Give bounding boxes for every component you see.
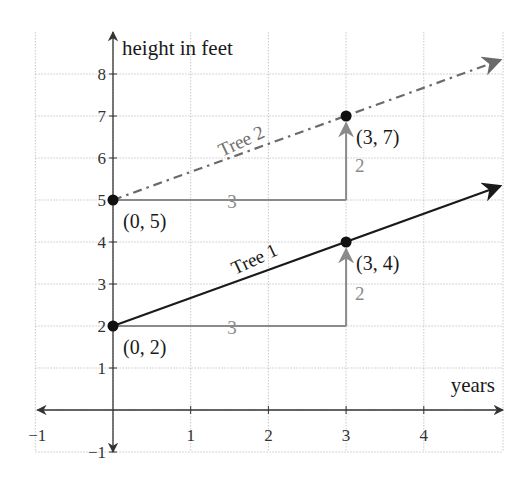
run-label: 3 [227,191,237,212]
rise-label: 2 [355,155,365,176]
y-tick-label: 7 [98,107,107,126]
data-point [341,237,352,248]
point-label: (0, 2) [123,336,166,359]
rise-label: 2 [355,283,365,304]
x-tick-label: 3 [342,426,351,445]
x-tick-label: 4 [420,426,429,445]
series-tree-1: 32Tree 1(0, 2)(3, 4) [108,186,501,359]
data-point [341,111,352,122]
y-tick-label: 1 [98,359,107,378]
y-tick-label: 8 [98,65,107,84]
point-label: (3, 7) [356,126,399,149]
y-tick-label: 5 [98,191,107,210]
series-line [113,186,501,326]
x-tick-label: −1 [28,426,46,445]
data-point [108,195,119,206]
y-tick-label: 6 [98,149,107,168]
y-axis-title: height in feet [122,36,233,60]
series-line [113,60,501,200]
series-label: Tree 1 [228,239,281,278]
x-tick-label: 2 [264,426,273,445]
y-tick-label: −1 [88,443,106,462]
point-label: (0, 5) [123,210,166,233]
point-label: (3, 4) [356,252,399,275]
line-chart: −11234−112345678 32Tree 1(0, 2)(3, 4)32T… [0,0,532,489]
data-point [108,321,119,332]
x-axis-title: years [451,373,495,397]
x-tick-label: 1 [186,426,195,445]
y-tick-label: 2 [98,317,107,336]
y-tick-label: 4 [98,233,107,252]
series-layer: 32Tree 1(0, 2)(3, 4)32Tree 2(0, 5)(3, 7) [108,60,501,359]
y-tick-label: 3 [98,275,107,294]
run-label: 3 [227,317,237,338]
